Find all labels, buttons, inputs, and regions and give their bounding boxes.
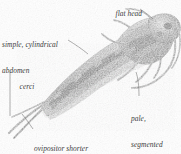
label-flat-head: flat head (108, 1, 142, 27)
label-abdomen-line1: simple, cylindrical (2, 41, 58, 50)
label-ovipositor-line1: ovipositor shorter (34, 145, 88, 154)
leader-antennae (136, 72, 139, 96)
label-antennae-line1: pale, (131, 115, 163, 124)
label-cerci: cerci (12, 74, 34, 100)
insect-anatomy-figure: flat head simple, cylindrical abdomen ce… (0, 0, 181, 154)
label-antennae: pale, segmented antennae (131, 98, 163, 154)
leader-ovipositor (22, 114, 33, 129)
label-cerci-text: cerci (20, 82, 35, 91)
label-antennae-line2: segmented (131, 141, 163, 150)
leader-abdomen (68, 40, 88, 54)
label-ovipositor: ovipositor shorter than cerci (34, 128, 88, 154)
label-flat-head-text: flat head (116, 9, 143, 18)
